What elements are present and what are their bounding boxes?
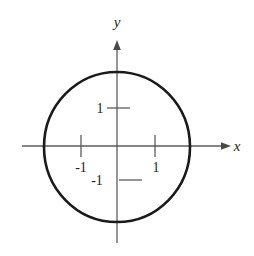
figure-canvas: x y -1 1 1 -1: [0, 0, 254, 256]
math-figure: x y -1 1 1 -1: [0, 0, 254, 256]
y-tick-label-neg1: -1: [91, 173, 103, 188]
x-axis-arrow-icon: [221, 142, 231, 150]
y-axis-label: y: [112, 14, 121, 30]
x-tick-label-pos1: 1: [153, 160, 160, 175]
x-tick-label-neg1: -1: [75, 160, 87, 175]
x-axis-label: x: [233, 138, 241, 154]
y-axis-arrow-icon: [113, 40, 121, 50]
y-tick-label-pos1: 1: [97, 101, 104, 116]
